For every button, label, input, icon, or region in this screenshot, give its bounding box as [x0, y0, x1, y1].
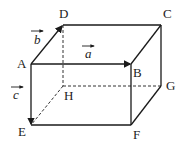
vertex-label-D: D — [59, 6, 68, 21]
vector-label-c: c — [11, 87, 23, 102]
cuboid-diagram: D C A B G H E F b a c — [0, 0, 182, 145]
svg-text:a: a — [85, 46, 92, 61]
vertex-label-F: F — [133, 127, 140, 142]
edge-CB — [131, 25, 161, 64]
vertex-label-B: B — [133, 65, 142, 80]
vertex-label-C: C — [163, 6, 172, 21]
edge-GF — [131, 86, 161, 125]
edge-HE — [31, 86, 63, 125]
vertex-label-E: E — [18, 124, 26, 139]
vector-edges — [31, 26, 130, 124]
vertex-label-H: H — [64, 88, 73, 103]
vertex-label-G: G — [166, 78, 175, 93]
svg-text:c: c — [13, 87, 19, 102]
vector-label-b: b — [31, 31, 43, 47]
vertex-label-A: A — [17, 56, 27, 71]
vector-label-a: a — [82, 46, 94, 61]
svg-text:b: b — [34, 32, 41, 47]
